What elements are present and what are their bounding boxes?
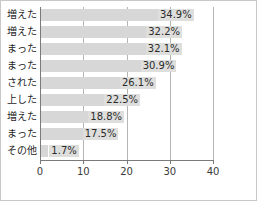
value-label: 30.9% bbox=[141, 60, 177, 72]
tick-mark-10 bbox=[83, 160, 84, 164]
bar-row: まった30.9% bbox=[1, 58, 257, 75]
tick-mark-0 bbox=[40, 160, 41, 164]
x-tick-label-30: 30 bbox=[155, 166, 185, 177]
value-label: 32.2% bbox=[146, 26, 182, 38]
tick-mark-30 bbox=[170, 160, 171, 164]
tick-mark-40 bbox=[213, 160, 214, 164]
category-label: された bbox=[0, 77, 40, 89]
bar-row: 増えた32.2% bbox=[1, 24, 257, 41]
value-label: 26.1% bbox=[120, 77, 156, 89]
value-label: 34.9% bbox=[158, 9, 194, 21]
value-label: 18.8% bbox=[88, 111, 124, 123]
x-tick-label-0: 0 bbox=[25, 166, 55, 177]
category-label: まった bbox=[0, 128, 40, 140]
value-label: 1.7% bbox=[49, 145, 78, 157]
category-label: 増えた bbox=[0, 26, 40, 38]
bar bbox=[41, 145, 48, 157]
bar-row: 増えた34.9% bbox=[1, 7, 257, 24]
value-label: 22.5% bbox=[104, 94, 140, 106]
category-label: 増えた bbox=[0, 9, 40, 21]
category-label: 上した bbox=[0, 94, 40, 106]
x-tick-label-20: 20 bbox=[112, 166, 142, 177]
plot-area: 010203040 増えた34.9%増えた32.2%まった32.1%まった30.… bbox=[1, 1, 257, 201]
category-label: その他 bbox=[0, 145, 40, 157]
value-label: 17.5% bbox=[83, 128, 119, 140]
bar-row: 上した22.5% bbox=[1, 92, 257, 109]
category-label: まった bbox=[0, 60, 40, 72]
bar-row: その他1.7% bbox=[1, 143, 257, 160]
tick-mark-20 bbox=[127, 160, 128, 164]
value-label: 32.1% bbox=[146, 43, 182, 55]
bar-row: 増えた18.8% bbox=[1, 109, 257, 126]
category-label: まった bbox=[0, 43, 40, 55]
x-tick-label-40: 40 bbox=[198, 166, 228, 177]
bar-row: まった17.5% bbox=[1, 126, 257, 143]
category-label: 増えた bbox=[0, 111, 40, 123]
bar-row: まった32.1% bbox=[1, 41, 257, 58]
x-tick-label-10: 10 bbox=[68, 166, 98, 177]
bar-row: された26.1% bbox=[1, 75, 257, 92]
bar-chart: 010203040 増えた34.9%増えた32.2%まった32.1%まった30.… bbox=[0, 0, 257, 201]
